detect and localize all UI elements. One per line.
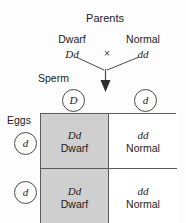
punnett-square-figure: Parents Dwarf Dd × Normal dd Sperm D d E… — [0, 0, 186, 223]
cross-symbol: × — [104, 48, 110, 60]
cell-genotype: Dd — [68, 129, 81, 141]
parent-left-phenotype: Dwarf — [58, 33, 85, 45]
sperm-label: Sperm — [38, 72, 69, 84]
parent-left-genotype: Dd — [65, 48, 78, 60]
parent-right-genotype: dd — [138, 48, 149, 60]
egg-gamete-circle-1: d — [14, 132, 37, 155]
parents-heading: Parents — [86, 12, 124, 24]
cell-phenotype: Normal — [126, 142, 160, 154]
parent-right-phenotype: Normal — [126, 33, 160, 45]
punnett-cell: Dd Dwarf — [41, 169, 109, 223]
cell-genotype: Dd — [68, 185, 81, 197]
egg-gamete-allele-2: d — [23, 187, 29, 198]
punnett-cell: Dd Dwarf — [41, 114, 109, 169]
egg-gamete-circle-2: d — [14, 181, 37, 204]
punnett-cell: dd Normal — [109, 169, 177, 223]
sperm-gamete-circle-2: d — [134, 89, 157, 112]
sperm-gamete-circle-1: D — [62, 89, 85, 112]
cell-genotype: dd — [138, 185, 149, 197]
punnett-cell: dd Normal — [109, 114, 177, 169]
cell-phenotype: Normal — [126, 198, 160, 210]
punnett-grid: Dd Dwarf dd Normal Dd Dwarf dd Normal — [40, 113, 176, 223]
cell-genotype: dd — [138, 129, 149, 141]
egg-gamete-allele-1: d — [23, 138, 29, 149]
cell-phenotype: Dwarf — [61, 198, 88, 210]
sperm-gamete-allele-1: D — [70, 95, 78, 106]
eggs-label: Eggs — [7, 114, 31, 126]
sperm-gamete-allele-2: d — [143, 95, 149, 106]
cell-phenotype: Dwarf — [61, 142, 88, 154]
